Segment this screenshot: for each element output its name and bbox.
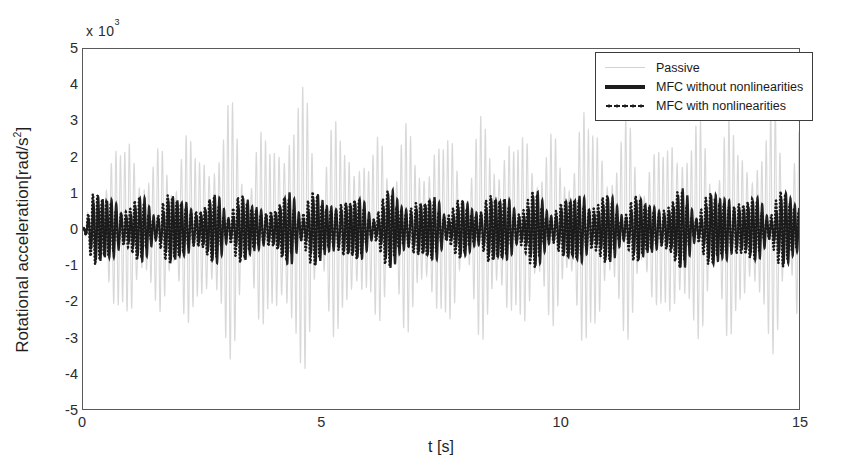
x-axis-tick-0: 0 (62, 414, 102, 430)
legend-item-passive: Passive (603, 58, 803, 77)
y-axis-tick--3: -3 (44, 330, 78, 346)
legend-swatch-passive (603, 62, 647, 74)
figure-canvas: x 103 543210-1-2-3-4-5 051015 Rotational… (0, 0, 844, 472)
y-axis-tick--2: -2 (44, 293, 78, 309)
y-axis-tick-0: 0 (44, 221, 78, 237)
y-axis-multiplier: x 103 (86, 22, 120, 39)
y-axis-tick-3: 3 (44, 112, 78, 128)
legend-item-mfc-with-nonlinearities: MFC with nonlinearities (603, 96, 803, 115)
y-axis-multiplier-base: x 10 (86, 23, 114, 39)
x-axis-tick-labels: 051015 (82, 414, 800, 436)
y-axis-multiplier-exponent: 3 (114, 17, 120, 27)
y-axis-label: Rotational acceleration[rad/s2] (11, 80, 33, 400)
x-axis-tick-5: 5 (301, 414, 341, 430)
y-axis-tick-2: 2 (44, 149, 78, 165)
x-axis-tick-15: 15 (780, 414, 820, 430)
legend-label-mfc-with-nonlinearities: MFC with nonlinearities (656, 99, 786, 113)
y-axis-tick-1: 1 (44, 185, 78, 201)
y-axis-tick--4: -4 (44, 366, 78, 382)
legend-label-mfc-without-nonlinearities: MFC without nonlinearities (656, 80, 803, 94)
y-axis-tick-labels: 543210-1-2-3-4-5 (38, 48, 78, 410)
legend-swatch-mfc-with-nonlinearities (603, 100, 647, 112)
y-axis-label-suffix: ] (13, 127, 32, 132)
legend-item-mfc-without-nonlinearities: MFC without nonlinearities (603, 77, 803, 96)
y-axis-tick--1: -1 (44, 257, 78, 273)
legend-swatch-mfc-without-nonlinearities (603, 81, 647, 93)
y-axis-label-text: Rotational acceleration[rad/s (13, 137, 32, 352)
chart-legend: Passive MFC without nonlinearities MFC w… (595, 52, 813, 121)
y-axis-tick-5: 5 (44, 40, 78, 56)
y-axis-label-exponent: 2 (11, 132, 23, 138)
x-axis-tick-10: 10 (541, 414, 581, 430)
x-axis-label: t [s] (82, 438, 800, 456)
y-axis-tick-4: 4 (44, 76, 78, 92)
legend-label-passive: Passive (656, 61, 700, 75)
